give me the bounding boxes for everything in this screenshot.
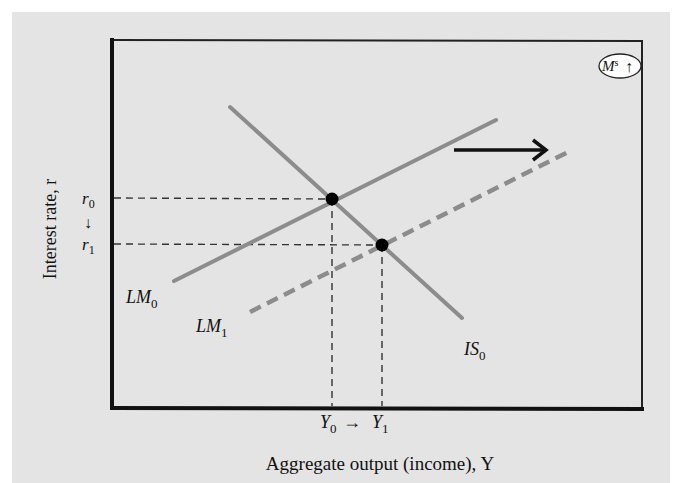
badge-s-superscript: s xyxy=(615,57,619,68)
shift-arrow-icon xyxy=(454,140,546,160)
islm-diagram: Ms ↑ r0 ↓ r1 Interest rate, r LM0 LM1 IS… xyxy=(0,0,677,483)
down-arrow-icon: ↓ xyxy=(84,214,92,231)
x-axis xyxy=(110,408,644,409)
money-supply-badge: Ms ↑ xyxy=(599,54,641,78)
y0-label: Y0 xyxy=(320,412,337,436)
equilibrium-point-initial xyxy=(326,193,339,206)
r0-label: r0 xyxy=(82,189,95,211)
equilibrium-point-new xyxy=(376,239,389,252)
r1-label: r1 xyxy=(82,235,95,257)
y-axis-title: Interest rate, r xyxy=(40,179,60,279)
right-arrow-icon: → xyxy=(343,412,361,432)
lm1-curve xyxy=(250,152,568,312)
lm1-label: LM1 xyxy=(195,316,228,340)
y1-label: Y1 xyxy=(372,412,389,436)
frame-top xyxy=(112,40,642,41)
is0-label: IS0 xyxy=(463,339,486,363)
r0-guide-line xyxy=(114,198,332,199)
up-arrow-icon: ↑ xyxy=(625,58,633,75)
x-axis-title: Aggregate output (income), Y xyxy=(266,453,495,475)
lm0-label: LM0 xyxy=(125,287,158,311)
is0-curve xyxy=(230,107,462,318)
figure-canvas: Ms ↑ r0 ↓ r1 Interest rate, r LM0 LM1 IS… xyxy=(0,0,677,483)
